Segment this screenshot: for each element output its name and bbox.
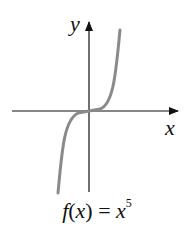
function-caption: f(x) = x5 (0, 198, 194, 224)
func-arg: x (76, 198, 86, 223)
exponent: 5 (126, 196, 132, 210)
x-axis-label: x (164, 115, 175, 140)
equals-sign: = (98, 198, 110, 223)
base: x (116, 198, 126, 223)
y-axis-label: y (68, 11, 80, 36)
func-name: f (62, 198, 68, 223)
